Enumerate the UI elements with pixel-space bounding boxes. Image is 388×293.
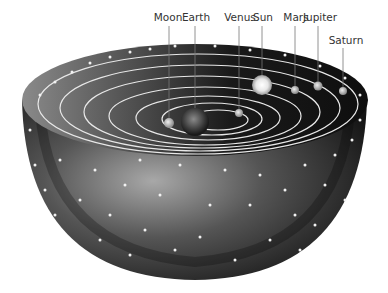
label-jupiter: Jupiter xyxy=(302,11,338,23)
label-venus: Venus xyxy=(224,11,256,23)
jupiter-body xyxy=(314,82,323,91)
earth-body xyxy=(181,108,209,136)
venus-body xyxy=(235,109,243,117)
mars-body xyxy=(291,86,299,94)
celestial-spheres-diagram: Moon Earth Venus Sun Mars Jupiter Saturn xyxy=(0,0,388,293)
label-sun: Sun xyxy=(253,11,273,23)
saturn-body xyxy=(339,87,347,95)
label-saturn: Saturn xyxy=(329,34,364,46)
label-moon: Moon xyxy=(154,11,183,23)
label-earth: Earth xyxy=(182,11,210,23)
sun-body xyxy=(252,75,272,95)
moon-body xyxy=(164,118,174,128)
